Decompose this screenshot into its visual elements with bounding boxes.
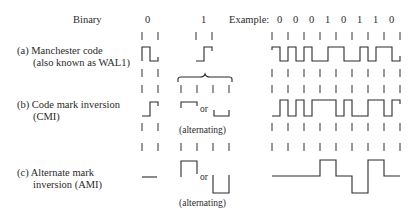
- example-bit: 0: [341, 14, 346, 25]
- brace: [178, 74, 232, 82]
- example-bit: 1: [373, 14, 378, 25]
- example-bit: 0: [293, 14, 298, 25]
- row-b-waveforms: or (alternating): [142, 100, 400, 136]
- example-bit: 0: [389, 14, 394, 25]
- row-c-label-line2: inversion (AMI): [33, 179, 103, 191]
- row-c-label-line1: (c) Alternate mark: [17, 167, 95, 179]
- example-bits: 0 0 0 1 0 1 1 0: [277, 14, 394, 25]
- row-c-or: or: [200, 172, 209, 182]
- bit-zero-label: 0: [145, 14, 150, 25]
- example-bit: 0: [309, 14, 314, 25]
- example-bit: 1: [325, 14, 330, 25]
- row-b-alternating: (alternating): [179, 125, 226, 136]
- row-b-label-line2: (CMI): [33, 111, 60, 123]
- row-b-label-line1: (b) Code mark inversion: [17, 99, 121, 111]
- row-b-or: or: [200, 104, 209, 114]
- bit-one-label: 1: [201, 14, 206, 25]
- example-bit: 0: [277, 14, 282, 25]
- row-a-label-line2: (also known as WAL1): [33, 57, 130, 69]
- row-c-waveforms: or (alternating): [142, 160, 400, 209]
- example-label: Example:: [229, 14, 269, 25]
- example-bit: 1: [357, 14, 362, 25]
- row-c-alternating: (alternating): [179, 198, 226, 209]
- line-coding-diagram: Binary 0 1 Example: 0 0 0 1 0 1 1 0 (a) …: [0, 0, 416, 219]
- binary-label: Binary: [73, 14, 102, 25]
- row-a-label-line1: (a) Manchester code: [17, 45, 103, 57]
- row-a-waveforms: [142, 47, 400, 61]
